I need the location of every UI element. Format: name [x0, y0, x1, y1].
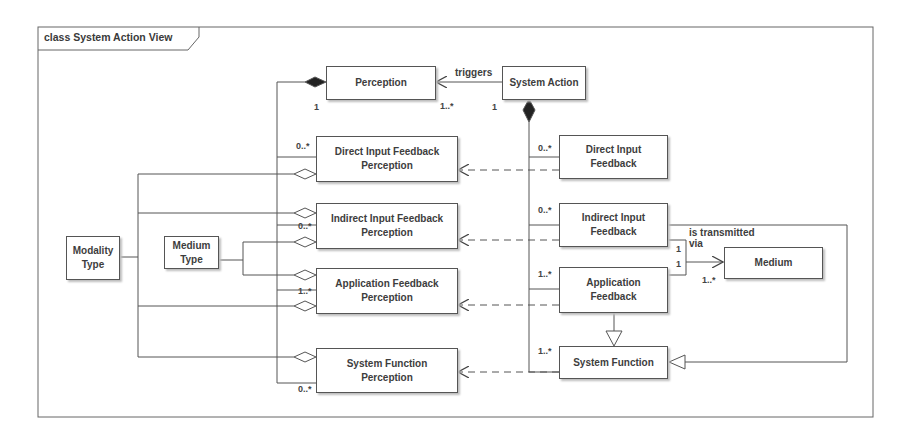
class-application-feedback[interactable]: Application Feedback	[559, 267, 668, 313]
system-action-composition-line	[523, 99, 559, 372]
class-indirect-input-feedback[interactable]: Indirect Input Feedback	[559, 203, 668, 247]
multiplicity-sfp: 0..*	[298, 384, 312, 394]
multiplicity-triggers-target: 1..*	[440, 101, 454, 111]
class-perception[interactable]: Perception	[326, 66, 436, 100]
triggers-label: triggers	[455, 67, 492, 78]
multiplicity-af: 1..*	[538, 269, 552, 279]
class-system-action[interactable]: System Action	[502, 66, 586, 100]
multiplicity-iif: 0..*	[538, 205, 552, 215]
multiplicity-difp: 0..*	[296, 141, 310, 151]
class-application-feedback-perception[interactable]: Application Feedback Perception	[316, 268, 458, 314]
class-system-function-perception[interactable]: System Function Perception	[316, 348, 458, 393]
multiplicity-dif: 0..*	[538, 143, 552, 153]
multiplicity-iifp: 0..*	[298, 221, 312, 231]
multiplicity-iif-medium: 1	[676, 244, 681, 254]
multiplicity-af-medium: 1	[676, 259, 681, 269]
class-indirect-input-feedback-perception[interactable]: Indirect Input Feedback Perception	[316, 203, 458, 249]
class-medium-type[interactable]: Medium Type	[164, 236, 219, 269]
frame-title: class System Action View	[44, 31, 172, 43]
transmitted-via-label: is transmitted via	[689, 227, 755, 249]
multiplicity-triggers-source: 1	[492, 102, 497, 112]
class-direct-input-feedback[interactable]: Direct Input Feedback	[559, 135, 668, 179]
multiplicity-medium: 1..*	[702, 275, 716, 285]
class-modality-type[interactable]: Modality Type	[66, 236, 120, 280]
multiplicity-sf: 1..*	[538, 346, 552, 356]
multiplicity-afp: 1..*	[298, 286, 312, 296]
multiplicity-perception-composite: 1	[314, 102, 319, 112]
class-system-function[interactable]: System Function	[559, 346, 668, 379]
class-medium[interactable]: Medium	[724, 247, 823, 279]
medium-type-aggregations	[218, 237, 316, 280]
class-direct-input-feedback-perception[interactable]: Direct Input Feedback Perception	[316, 136, 458, 182]
